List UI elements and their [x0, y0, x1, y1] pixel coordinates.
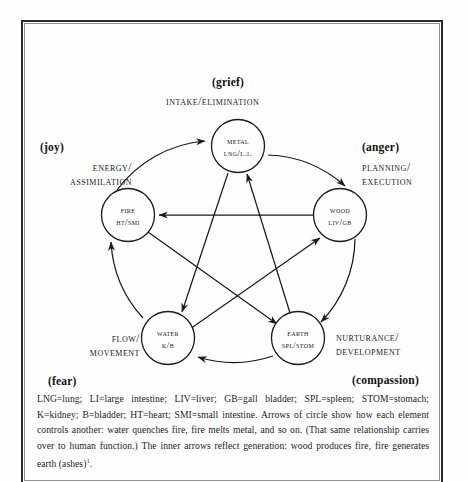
emotion-label-compassion: (compassion)	[352, 374, 419, 386]
function-label-fire: Energy/ Assimilation	[46, 160, 132, 188]
figure-caption: LNG=lung; LI=large intestine; LIV=liver;…	[37, 391, 429, 472]
arrow-earth-to-metal	[247, 174, 290, 313]
node-water-element: WATER	[157, 328, 179, 338]
function-label-fire-line2: Assimilation	[70, 175, 132, 187]
element-nodes: METAL LNG/L.I. FIRE HT/SMI WOOD LIV/GB W…	[102, 120, 367, 365]
node-water-organs: K/B	[162, 340, 174, 350]
arrow-water-to-fire	[111, 242, 143, 318]
node-earth[interactable]: EARTH SPL/STOM	[272, 312, 325, 365]
figure-caption-text: LNG=lung; LI=large intestine; LIV=liver;…	[37, 393, 429, 470]
arrow-metal-to-water	[182, 173, 228, 312]
function-label-wood-line2: Execution	[362, 175, 412, 187]
function-label-metal: Intake/Elimination	[166, 94, 259, 108]
function-label-water: Flow/ Movement	[62, 331, 140, 359]
function-label-fire-line1: Energy/	[93, 161, 132, 173]
function-label-earth: Nurturance/ Development	[336, 330, 446, 358]
node-wood[interactable]: WOOD LIV/GB	[314, 189, 367, 242]
node-earth-organs: SPL/STOM	[282, 341, 315, 350]
emotion-label-grief: (grief)	[212, 76, 244, 88]
emotion-label-anger: (anger)	[362, 141, 399, 153]
figure-page: METAL LNG/L.I. FIRE HT/SMI WOOD LIV/GB W…	[0, 0, 467, 482]
function-label-metal-line2: Elimination	[202, 95, 260, 107]
emotion-label-joy: (joy)	[40, 141, 64, 153]
inner-generation-arrows	[148, 173, 320, 329]
function-label-wood-line1: Planning/	[362, 161, 411, 173]
node-fire-element: FIRE	[121, 205, 136, 215]
arrow-fire-to-earth	[148, 232, 277, 324]
arrow-metal-to-wood	[268, 155, 345, 186]
node-metal-element: METAL	[227, 136, 249, 146]
function-label-earth-line2: Development	[336, 345, 401, 357]
node-fire[interactable]: FIRE HT/SMI	[102, 189, 155, 242]
node-water[interactable]: WATER K/B	[142, 312, 195, 365]
arrow-wood-to-earth	[321, 239, 355, 322]
node-metal[interactable]: METAL LNG/L.I.	[212, 120, 265, 173]
function-label-water-line2: Movement	[90, 346, 140, 358]
function-label-earth-line1: Nurturance/	[336, 331, 399, 343]
emotion-label-fear: (fear)	[48, 375, 77, 387]
function-label-wood: Planning/ Execution	[362, 160, 452, 188]
arrow-earth-to-water	[198, 356, 273, 362]
node-wood-element: WOOD	[330, 205, 351, 215]
function-label-water-line1: Flow/	[112, 332, 140, 344]
figure-caption-footnote-marker: 1	[86, 457, 89, 464]
function-label-metal-line1: Intake/	[166, 95, 202, 107]
node-metal-organs: LNG/L.I.	[224, 148, 252, 158]
node-earth-element: EARTH	[287, 328, 309, 338]
node-wood-organs: LIV/GB	[328, 217, 351, 227]
node-fire-organs: HT/SMI	[116, 217, 140, 227]
